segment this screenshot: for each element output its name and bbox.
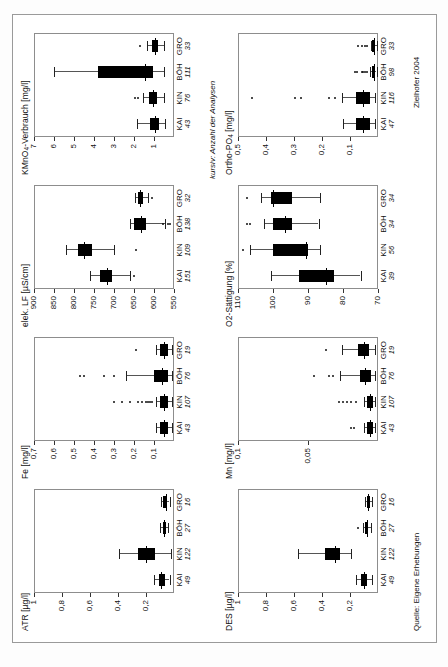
whisker-cap-min: [377, 41, 378, 51]
whisker-cap-max: [261, 193, 262, 203]
x-category-label: GRO19: [176, 337, 192, 363]
outlier-point: [361, 45, 363, 47]
outlier-point: [139, 45, 141, 47]
whisker-cap-max: [161, 497, 162, 507]
whisker-cap-min: [372, 497, 373, 507]
panel-mn: Mn [mg/l]0,10,05KAI43KIN107BÖH76GRO19: [224, 329, 420, 481]
outlier-point: [357, 45, 359, 47]
whisker-cap-min: [148, 193, 149, 203]
median-line: [273, 190, 274, 207]
median-line: [368, 494, 369, 511]
category-count: 16: [388, 489, 396, 515]
category-count: 33: [388, 33, 396, 59]
whisker-cap-min: [170, 497, 171, 507]
category-count: 16: [184, 489, 192, 515]
x-category-label: GRO16: [380, 489, 396, 515]
source-note: Quelle: Eigene Erhebungen: [412, 533, 421, 631]
category-count: 32: [184, 185, 192, 211]
whisker-cap-max: [365, 497, 366, 507]
panel-kmno4: KMnO4-Verbrauch [mg/l]7654321KAI43KIN76B…: [20, 25, 216, 177]
outlier-point: [135, 349, 137, 351]
figure-outer-border: ATR [µg/l]10,80,60,40,2KAI49KIN122BÖH27G…: [12, 14, 437, 643]
category-count: 19: [388, 337, 396, 363]
outlier-point: [364, 45, 366, 47]
box-iqr: [271, 192, 292, 204]
whisker-cap-min: [172, 345, 173, 355]
whisker-cap-min: [164, 41, 165, 51]
whisker-cap-max: [342, 345, 343, 355]
panel-grid: ATR [µg/l]10,80,60,40,2KAI49KIN122BÖH27G…: [14, 16, 435, 641]
rotated-figure-stage: ATR [µg/l]10,80,60,40,2KAI49KIN122BÖH27G…: [14, 16, 435, 641]
outlier-point: [151, 197, 153, 199]
panel-atr: ATR [µg/l]10,80,60,40,2KAI49KIN122BÖH27G…: [20, 481, 216, 633]
median-line: [155, 38, 156, 55]
credit-note: Zielhofer 2004: [412, 57, 421, 108]
whisker-cap-min: [320, 193, 321, 203]
figure-page: ATR [µg/l]10,80,60,40,2KAI49KIN122BÖH27G…: [0, 0, 448, 667]
x-category-label: GRO33: [380, 33, 396, 59]
x-category-label: GRO33: [176, 33, 192, 59]
panel-ortho_po4: Ortho-PO4 [mg/l]0,50,40,30,20,1KAI47KIN1…: [224, 25, 420, 177]
panel-fe: Fe [mg/l]0,70,60,50,40,30,20,1KAI43KIN10…: [20, 329, 216, 481]
x-category-label: GRO19: [380, 337, 396, 363]
outlier-point: [246, 197, 248, 199]
legend-note-italic: kursiv: Anzahl der Analysen: [208, 81, 217, 179]
category-count: 33: [184, 33, 192, 59]
outlier-point: [325, 349, 327, 351]
panel-des: DES [µg/l]10,80,60,40,2KAI49KIN122BÖH27G…: [224, 481, 420, 633]
median-line: [140, 190, 141, 207]
whisker-cap-min: [375, 345, 376, 355]
whisker-cap-max: [156, 345, 157, 355]
x-category-label: GRO32: [176, 185, 192, 211]
x-category-label: GRO16: [176, 489, 192, 515]
category-count: 19: [184, 337, 192, 363]
category-count: 34: [388, 185, 396, 211]
panel-o2: O2-Sättigung [%]110100908070KAI39KIN56BÖ…: [224, 177, 420, 329]
median-line: [164, 342, 165, 359]
panel-elek_lf: elek. LF [µS/cm]900850800750700650600550…: [20, 177, 216, 329]
median-line: [166, 494, 167, 511]
median-line: [374, 38, 375, 55]
outlier-point: [366, 45, 368, 47]
median-line: [364, 342, 365, 359]
x-category-label: GRO34: [380, 185, 396, 211]
whisker-cap-max: [135, 193, 136, 203]
whisker-cap-max: [147, 41, 148, 51]
